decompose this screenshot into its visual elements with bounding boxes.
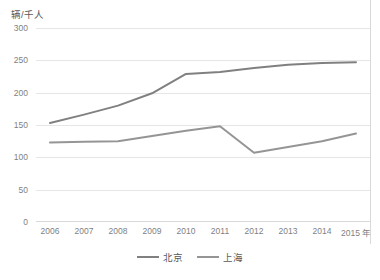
y-axis-tick-label: 200	[0, 88, 28, 98]
x-axis-tick-label: 2012	[245, 226, 264, 236]
x-axis-tick-label: 2008	[109, 226, 128, 236]
x-axis-tick-label: 2011	[211, 226, 229, 236]
y-axis-tick-label: 150	[0, 120, 28, 130]
series-line	[50, 126, 356, 153]
x-axis-tick-label: 2013	[279, 226, 298, 236]
x-axis-tick-label: 2006	[41, 226, 60, 236]
series-lines	[36, 28, 370, 222]
chart-legend: 北京上海	[0, 250, 380, 264]
chart-right-border	[370, 0, 371, 244]
legend-item[interactable]: 上海	[197, 250, 243, 264]
x-axis-tick-labels: 2006200720082009201020112012201320142015…	[36, 226, 370, 242]
x-axis-tick-label: 2010	[177, 226, 196, 236]
y-axis-tick-label: 100	[0, 152, 28, 162]
legend-label: 上海	[223, 250, 243, 264]
y-axis-tick-label: 50	[0, 185, 28, 195]
y-axis-tick-label: 0	[0, 217, 28, 227]
x-axis-unit-label: 年	[362, 228, 371, 238]
x-axis-tick-label: 2015年	[341, 226, 371, 238]
series-line	[50, 62, 356, 123]
legend-item[interactable]: 北京	[137, 250, 183, 264]
y-axis-title: 辆/千人	[11, 7, 44, 21]
x-axis-tick-label: 2007	[75, 226, 94, 236]
line-chart: 辆/千人 050100150200250300 2006200720082009…	[0, 0, 380, 280]
legend-line-icon	[197, 256, 219, 259]
plot-area	[36, 28, 370, 222]
x-axis-tick-label: 2014	[313, 226, 332, 236]
legend-line-icon	[137, 256, 159, 259]
x-axis-tick-label: 2009	[143, 226, 162, 236]
legend-label: 北京	[163, 250, 183, 264]
y-axis-tick-label: 300	[0, 23, 28, 33]
y-axis-tick-label: 250	[0, 55, 28, 65]
